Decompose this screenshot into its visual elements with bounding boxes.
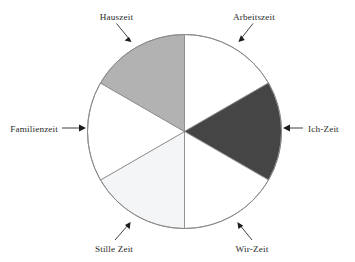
pie-chart-figure: Hauszeit Arbeitszeit Ich-Zeit Familienze… — [0, 0, 355, 262]
pie-label-arbeitszeit: Arbeitszeit — [233, 12, 275, 22]
pie-slices-group — [87, 35, 281, 229]
pie-label-wir-zeit: Wir-Zeit — [236, 244, 269, 254]
pie-chart-canvas: Hauszeit Arbeitszeit Ich-Zeit Familienze… — [0, 0, 355, 262]
pie-label-stille-zeit: Stille Zeit — [95, 244, 133, 254]
pie-label-hauszeit: Hauszeit — [100, 12, 134, 22]
pie-label-familienzeit: Familienzeit — [10, 124, 58, 134]
pie-label-ich-zeit: Ich-Zeit — [308, 124, 339, 134]
